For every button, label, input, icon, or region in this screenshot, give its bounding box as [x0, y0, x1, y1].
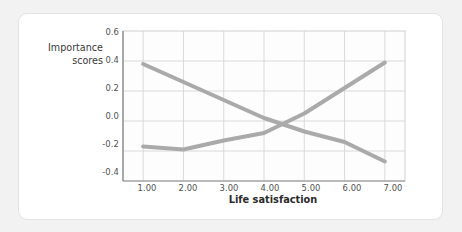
- line-chart: Importance scores 0.6 0.4 0.2 0.0 -0.2 -…: [19, 14, 444, 221]
- figure-card: Importance scores 0.6 0.4 0.2 0.0 -0.2 -…: [18, 13, 443, 220]
- plot-area: [19, 14, 444, 221]
